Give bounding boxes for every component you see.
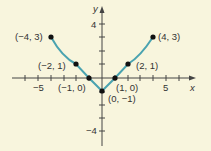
point-label: (1, 0) — [116, 82, 138, 93]
point-label: (−1, 0) — [58, 82, 86, 93]
x-tick-label: 5 — [163, 82, 168, 93]
y-axis-label: y — [92, 3, 99, 14]
point-label: (0, −1) — [108, 93, 136, 104]
x-axis-arrow-icon — [189, 76, 196, 81]
y-tick-label: 4 — [91, 19, 96, 30]
point-label: (2, 1) — [136, 60, 158, 71]
y-axis-arrow-icon — [100, 6, 105, 13]
x-axis-label: x — [189, 82, 196, 93]
point-label: (−4, 3) — [15, 31, 43, 42]
y-tick-label: −4 — [86, 125, 97, 136]
point-label: (−2, 1) — [38, 60, 66, 71]
graph: (−4, 3) (−2, 1) (−1, 0) (0, −1) (1, 0) (… — [0, 0, 211, 151]
x-tick-label: −5 — [33, 82, 44, 93]
point-label: (4, 3) — [158, 31, 180, 42]
